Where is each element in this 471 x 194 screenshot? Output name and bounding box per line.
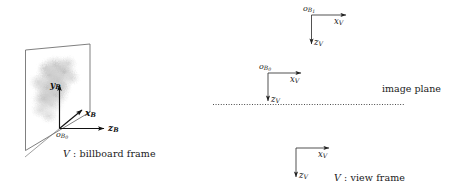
billboard-y-axis-label: yB [50, 80, 61, 91]
figure-root: yB xB zB oB0 V : billboard frame oB1 xV … [0, 0, 471, 194]
view-frame-caption: V : view frame [334, 172, 405, 183]
frame-view-x-axis-label: xV [318, 149, 327, 159]
frame-view-z-axis-label: zV [299, 170, 308, 180]
billboard-origin-label: oB0 [56, 130, 68, 140]
figure-canvas [0, 0, 471, 194]
billboard-frame-caption: V : billboard frame [63, 148, 156, 159]
billboard-x-axis-label: xB [85, 108, 96, 119]
image-plane-label: image plane [382, 83, 441, 94]
frame-b1-origin-label: oB1 [303, 4, 315, 14]
billboard-z-axis-label: zB [108, 123, 119, 134]
frame-b1-z-axis-label: zV [314, 37, 323, 47]
frame-b0-origin-label: oB0 [259, 62, 271, 72]
frame-b0-x-axis-label: xV [290, 74, 299, 84]
frame-b0-z-axis-label: zV [271, 94, 280, 104]
frame-b1-x-axis-label: xV [334, 16, 343, 26]
